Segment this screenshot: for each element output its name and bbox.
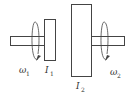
i1-subscript: 1 [50, 70, 54, 77]
label-omega1: ω 1 [19, 65, 30, 77]
label-i1: I 1 [44, 65, 54, 77]
i1-symbol: I [44, 65, 49, 75]
two-disk-clutch-diagram: ω 1 I 1 I 2 ω 2 [0, 0, 133, 95]
i2-symbol: I [75, 81, 80, 91]
i2-subscript: 2 [81, 86, 85, 93]
label-i2: I 2 [75, 81, 85, 93]
disk-i1 [45, 20, 56, 61]
rotation-arrowhead-right [105, 55, 110, 61]
rotation-arrowhead-left [36, 55, 41, 61]
label-omega2: ω 2 [110, 67, 121, 79]
omega1-subscript: 1 [26, 70, 30, 77]
disk-i2 [72, 5, 92, 77]
omega2-subscript: 2 [117, 72, 121, 79]
left-shaft [11, 37, 46, 46]
